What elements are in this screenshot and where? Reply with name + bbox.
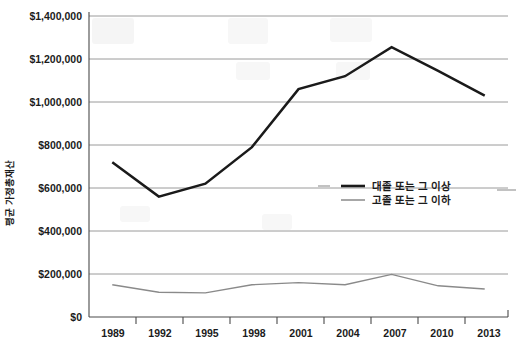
legend-item-high-school-or-less: 고졸 또는 그 이하 (341, 194, 451, 206)
x-tick-label: 2007 (383, 327, 407, 339)
legend-label: 고졸 또는 그 이하 (372, 194, 451, 206)
chart-container: 평균 가정총재산 $1,400,000 $1,200,000 $1,000,00… (0, 0, 519, 360)
chart-legend: 대졸 또는 그 이상 고졸 또는 그 이하 (341, 180, 451, 206)
line-chart: 평균 가정총재산 $1,400,000 $1,200,000 $1,000,00… (0, 0, 519, 360)
y-tick-label: $400,000 (38, 225, 82, 237)
x-tick-label: 2004 (336, 327, 360, 339)
y-tick-label: $1,200,000 (29, 53, 82, 65)
legend-item-college-or-more: 대졸 또는 그 이상 (341, 180, 451, 192)
x-tick-label: 1995 (195, 327, 219, 339)
series-line-college-or-more (112, 47, 484, 196)
legend-label: 대졸 또는 그 이상 (372, 180, 451, 192)
x-axis-tickmarks (136, 317, 465, 324)
gridlines (89, 16, 508, 274)
x-tick-label: 1998 (242, 327, 266, 339)
y-axis-tick-labels: $1,400,000 $1,200,000 $1,000,000 $800,00… (29, 10, 82, 323)
scan-artifacts (92, 18, 372, 230)
axes (89, 12, 508, 317)
y-tick-label: $200,000 (38, 268, 82, 280)
series-line-high-school-or-less (112, 274, 484, 292)
y-tick-label: $1,000,000 (29, 96, 82, 108)
x-tick-label: 2001 (289, 327, 313, 339)
x-tick-label: 1992 (148, 327, 172, 339)
y-tick-label: $600,000 (38, 182, 82, 194)
y-tick-label: $1,400,000 (29, 10, 82, 22)
x-axis-tick-labels: 1989 1992 1995 1998 2001 2004 2007 2010 … (101, 327, 501, 339)
y-tick-label: $0 (70, 311, 82, 323)
x-tick-label: 2013 (477, 327, 501, 339)
y-tick-label: $800,000 (38, 139, 82, 151)
x-tick-label: 1989 (101, 327, 125, 339)
data-series (112, 47, 484, 293)
x-tick-label: 2010 (430, 327, 454, 339)
y-axis-title: 평균 가정총재산 (4, 160, 15, 226)
